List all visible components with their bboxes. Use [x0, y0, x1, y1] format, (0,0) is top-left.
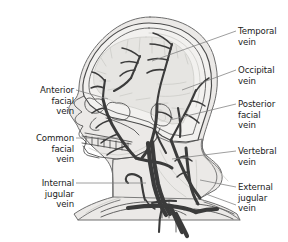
label-line: facial [238, 110, 260, 120]
anatomical-figure-veins-head-neck: AnteriorfacialveinCommonfacialveinIntern… [0, 0, 288, 242]
label-line: vein [238, 76, 256, 86]
head-neck-vein-diagram: AnteriorfacialveinCommonfacialveinIntern… [0, 0, 288, 242]
label-line: Vertebral [238, 146, 276, 156]
label-vertebral-vein: Vertebralvein [238, 146, 276, 167]
label-external-jugular-vein: Externaljugularvein [237, 182, 273, 213]
label-line: facial [52, 144, 74, 154]
label-internal-jugular-vein: Internaljugularvein [42, 178, 75, 209]
label-line: vein [56, 106, 74, 116]
label-anterior-facial-vein: Anteriorfacialvein [40, 85, 74, 116]
label-line: Internal [42, 178, 74, 188]
label-line: vein [56, 154, 74, 164]
label-line: vein [238, 37, 256, 47]
label-line: facial [52, 96, 74, 106]
label-line: vein [238, 157, 256, 167]
label-common-facial-vein: Commonfacialvein [36, 133, 74, 164]
label-line: jugular [44, 189, 75, 199]
label-line: Common [36, 133, 74, 143]
label-posterior-facial-vein: Posteriorfacialvein [238, 99, 276, 130]
label-line: Temporal [237, 26, 277, 36]
label-line: External [238, 182, 273, 192]
label-line: Occipital [238, 65, 275, 75]
label-line: vein [238, 120, 256, 130]
label-line: vein [238, 203, 256, 213]
label-line: Posterior [238, 99, 276, 109]
label-line: jugular [237, 193, 268, 203]
label-line: vein [56, 199, 74, 209]
label-temporal-vein: Temporalvein [237, 26, 277, 47]
label-occipital-vein: Occipitalvein [238, 65, 275, 86]
label-line: Anterior [40, 85, 74, 95]
